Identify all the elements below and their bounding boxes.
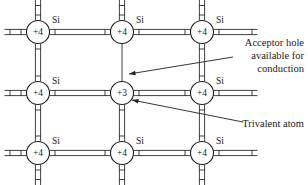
- atom-charge-label: +4: [33, 27, 43, 37]
- atom-charge-label: +4: [117, 27, 127, 37]
- callout-arrow-head: [132, 99, 139, 104]
- callout-text-line: Trivalent atom: [242, 118, 304, 129]
- element-symbol-label: Si: [52, 15, 60, 25]
- element-symbol-label: Si: [136, 136, 144, 146]
- atoms-layer: +4Si+4Si+4Si+4Si+3+4Si+4Si+4Si+4Si: [27, 15, 225, 165]
- callout-text-line: Acceptor hole: [245, 37, 305, 48]
- element-symbol-label: Si: [216, 15, 224, 25]
- atom-charge-label: +4: [33, 148, 43, 158]
- atom-charge-label: +4: [117, 148, 127, 158]
- atom-charge-label: +3: [117, 88, 127, 98]
- atom-charge-label: +4: [197, 27, 207, 37]
- callout-leader-line: [129, 57, 233, 74]
- element-symbol-label: Si: [136, 15, 144, 25]
- callout-text-line: conduction: [257, 63, 304, 74]
- element-symbol-label: Si: [52, 136, 60, 146]
- callout-arrow-head: [129, 71, 136, 76]
- atom-charge-label: +4: [33, 88, 43, 98]
- lattice-diagram: +4Si+4Si+4Si+4Si+3+4Si+4Si+4Si+4Si Accep…: [0, 0, 308, 185]
- element-symbol-label: Si: [216, 76, 224, 86]
- callout-text-line: available for: [251, 50, 304, 61]
- semiconductor-lattice-figure: +4Si+4Si+4Si+4Si+3+4Si+4Si+4Si+4Si Accep…: [0, 0, 308, 185]
- element-symbol-label: Si: [52, 76, 60, 86]
- callout-leader-line: [132, 100, 243, 122]
- atom-charge-label: +4: [197, 88, 207, 98]
- atom-charge-label: +4: [197, 148, 207, 158]
- element-symbol-label: Si: [216, 136, 224, 146]
